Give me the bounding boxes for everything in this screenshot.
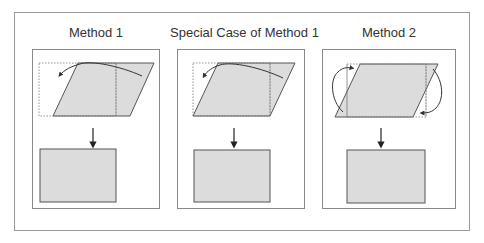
result-rectangle [194,150,270,202]
result-rectangle [347,150,425,203]
result-rectangle [40,149,116,202]
parallelogram-shape [53,63,154,116]
special-case-fold-diagram [193,63,295,202]
method-1-fold-diagram [39,63,154,202]
diagram-canvas [0,0,484,243]
method-2-fold-diagram [333,64,442,203]
parallelogram-shape [335,64,438,117]
